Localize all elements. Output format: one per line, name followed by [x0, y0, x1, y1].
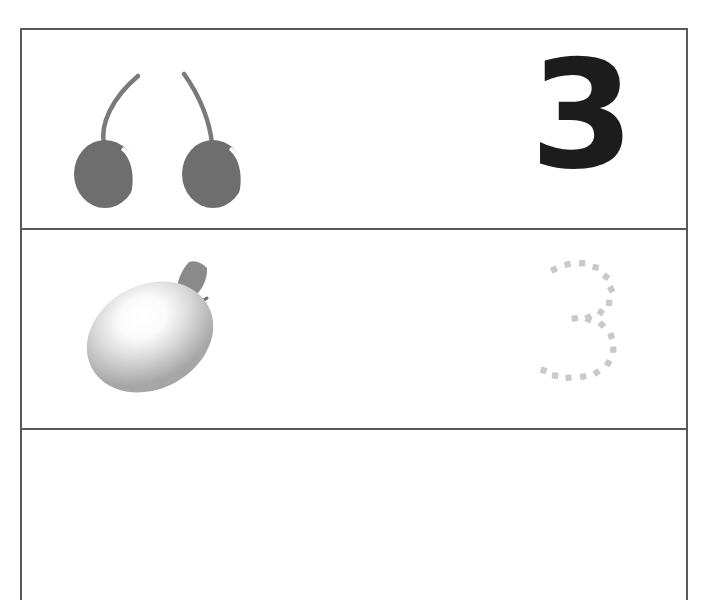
traceable-numeral[interactable] — [534, 256, 624, 386]
trace-dash — [579, 260, 585, 266]
trace-dash — [602, 272, 611, 281]
worksheet-table: 3 — [20, 28, 688, 600]
cherries-icon — [60, 46, 280, 216]
numeral-cell-blank[interactable] — [446, 430, 686, 600]
mango-body — [77, 260, 233, 412]
trace-dash — [592, 264, 600, 272]
worksheet-page: 3 — [0, 0, 719, 600]
trace-dash — [597, 320, 606, 329]
trace-dash — [610, 346, 616, 352]
numeral-cell-solid: 3 — [446, 30, 686, 228]
fruit-cell-mango — [22, 230, 442, 428]
trace-dash — [592, 368, 601, 377]
trace-dash — [564, 261, 572, 269]
printed-numeral: 3 — [530, 40, 632, 190]
numeral-cell-dotted[interactable] — [446, 230, 686, 428]
trace-dash — [540, 366, 548, 374]
trace-dash — [607, 285, 615, 293]
trace-dash — [607, 332, 615, 340]
table-row — [22, 230, 686, 430]
trace-dash — [550, 265, 558, 273]
trace-dash — [565, 374, 572, 381]
trace-dash — [606, 299, 613, 306]
trace-dash — [579, 373, 587, 381]
trace-dash — [552, 372, 559, 379]
trace-dash — [604, 359, 612, 367]
fruit-cell-cherries — [22, 30, 442, 228]
fruit-cell-blank[interactable] — [22, 430, 442, 600]
table-row[interactable] — [22, 430, 686, 600]
trace-dash — [571, 315, 578, 322]
trace-dash — [597, 308, 606, 317]
mango-icon — [77, 252, 247, 412]
table-row: 3 — [22, 30, 686, 230]
